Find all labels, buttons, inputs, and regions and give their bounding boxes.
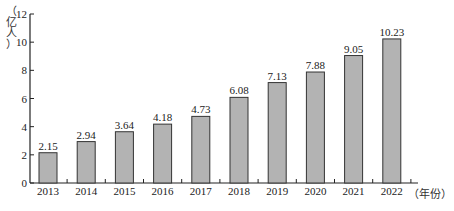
y-tick-label: 8 [22, 64, 28, 76]
x-tick-label: 2016 [152, 185, 175, 197]
bar-value-label: 9.05 [344, 43, 364, 55]
x-tick-label: 2018 [228, 185, 251, 197]
bar [383, 39, 401, 183]
bar [77, 142, 95, 183]
chart-plot-area: 0246810122.1520132.9420143.6420154.18201… [0, 0, 454, 211]
x-tick-label: 2017 [190, 185, 213, 197]
x-tick-label: 2014 [75, 185, 98, 197]
bar-value-label: 4.73 [191, 103, 211, 115]
y-axis-label: （ 亿 人 ） [4, 6, 18, 50]
bar [154, 124, 172, 183]
bar [306, 72, 324, 183]
bar-value-label: 7.88 [306, 59, 326, 71]
x-tick-label: 2015 [113, 185, 136, 197]
y-tick-label: 2 [22, 149, 28, 161]
y-tick-label: 4 [22, 121, 28, 133]
bar [345, 56, 363, 183]
bar [39, 153, 57, 183]
bar-value-label: 4.18 [153, 111, 173, 123]
y-tick-label: 0 [22, 177, 28, 189]
x-tick-label: 2021 [343, 185, 365, 197]
bar-value-label: 3.64 [115, 119, 135, 131]
x-tick-label: 2019 [266, 185, 289, 197]
x-axis-unit-label: （年份） [408, 185, 452, 201]
x-tick-label: 2013 [37, 185, 60, 197]
bar-value-label: 6.08 [229, 84, 249, 96]
bar [268, 83, 286, 183]
y-tick-label: 6 [22, 93, 28, 105]
bar-value-label: 7.13 [268, 70, 288, 82]
x-tick-label: 2020 [304, 185, 327, 197]
x-tick-label: 2022 [381, 185, 403, 197]
y-unit-char: ） [4, 39, 18, 50]
bar-value-label: 2.94 [77, 129, 97, 141]
bar-value-label: 10.23 [379, 26, 404, 38]
bar [230, 97, 248, 183]
bar-chart: 0246810122.1520132.9420143.6420154.18201… [0, 0, 454, 211]
bar-value-label: 2.15 [38, 140, 58, 152]
bar [115, 132, 133, 183]
bar [192, 116, 210, 183]
